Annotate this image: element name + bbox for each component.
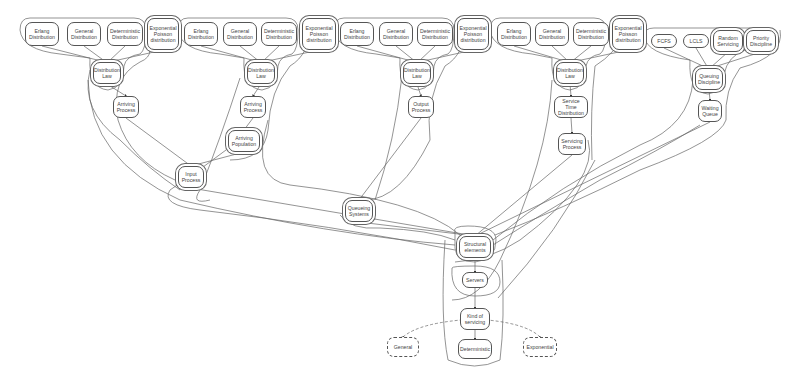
- service-time-distribution-node: Service Time Distribution: [554, 96, 588, 118]
- connector-lines: [0, 0, 795, 386]
- exponential-servicing-node: Exponential: [523, 337, 557, 357]
- erlang-distribution-node-3: Erlang Distribution: [340, 22, 374, 46]
- deterministic-distribution-node-2: Deterministic Distribution: [261, 22, 297, 46]
- arriving-process-node-1: Arriving Process: [113, 96, 139, 118]
- exponential-poisson-node-4: Exponential Poisson distribution: [612, 18, 644, 50]
- servers-node: Servers: [462, 272, 488, 288]
- distribution-law-node-2: Distribution Law: [247, 62, 275, 84]
- distribution-law-node-3: Distribution Law: [403, 62, 431, 84]
- general-distribution-node-2: General Distribution: [223, 22, 257, 46]
- deterministic-distribution-node-3: Deterministic Distribution: [417, 22, 453, 46]
- servicing-process-node: Servicing Process: [558, 133, 586, 155]
- fcfs-node: FCFS: [651, 34, 677, 48]
- distribution-law-node-4: Distribution Law: [556, 62, 584, 84]
- kind-of-servicing-node: Kind of servicing: [460, 308, 490, 330]
- queuing-discipline-node: Queuing Discipline: [695, 68, 723, 90]
- queueing-systems-node: Queueing Systems: [345, 200, 373, 222]
- exponential-poisson-node-1: Exponential Poisson distribution: [147, 18, 179, 50]
- diagram-canvas: Erlang Distribution General Distribution…: [0, 0, 795, 386]
- input-process-node: Input Process: [178, 166, 204, 188]
- deterministic-distribution-node-4: Deterministic Distribution: [573, 22, 609, 46]
- general-servicing-node: General: [387, 337, 419, 357]
- arriving-population-node: Arriving Population: [228, 130, 260, 152]
- arriving-process-node-2: Arriving Process: [240, 96, 266, 118]
- structural-elements-node: Structural elements: [459, 236, 491, 258]
- random-servicing-node: Random Servicing: [713, 30, 743, 52]
- exponential-poisson-node-2: Exponential Poisson distribution: [302, 18, 336, 50]
- deterministic-distribution-node-1: Deterministic Distribution: [107, 22, 143, 46]
- erlang-distribution-node-2: Erlang Distribution: [184, 22, 218, 46]
- erlang-distribution-node-1: Erlang Distribution: [25, 22, 59, 46]
- erlang-distribution-node-4: Erlang Distribution: [497, 22, 531, 46]
- general-distribution-node-1: General Distribution: [67, 22, 101, 46]
- distribution-law-node-1: Distribution Law: [93, 62, 121, 84]
- waiting-queue-node: Waiting Queue: [698, 100, 722, 122]
- output-process-node: Output Process: [408, 96, 434, 118]
- general-distribution-node-4: General Distribution: [535, 22, 569, 46]
- priority-discipline-node: Priority Discipline: [746, 30, 776, 52]
- deterministic-servicing-node: Deterministic: [458, 339, 492, 359]
- exponential-poisson-node-3: Exponential Poisson distribution: [457, 18, 489, 50]
- lcls-node: LCLS: [683, 34, 709, 48]
- general-distribution-node-3: General Distribution: [379, 22, 413, 46]
